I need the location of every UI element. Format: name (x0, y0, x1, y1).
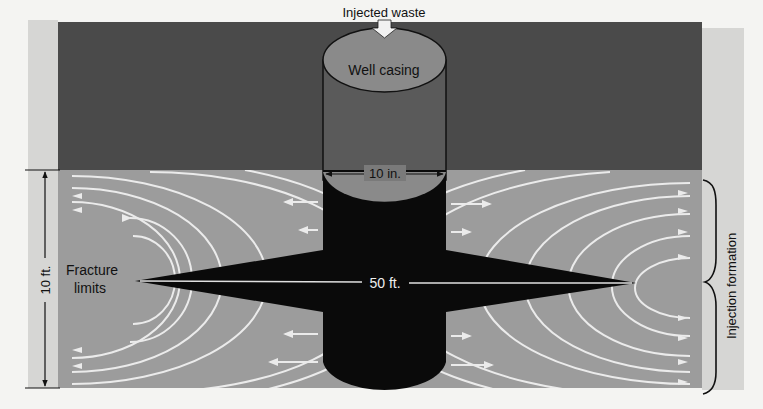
fracture-length-label: 50 ft. (369, 275, 400, 291)
injection-well-diagram: Injected waste Well casing 10 in. 50 ft.… (0, 0, 763, 409)
fracture-limits-label-line2: limits (74, 280, 106, 296)
formation-thickness-label: 10 ft. (38, 266, 53, 295)
left-side-strip (28, 20, 58, 388)
fracture-center-line-left (140, 281, 362, 282)
fracture-limits-label-line1: Fracture (66, 262, 118, 278)
injected-waste-label: Injected waste (342, 5, 425, 20)
well-casing (323, 28, 446, 390)
well-casing-label: Well casing (348, 62, 419, 78)
injection-formation-label: Injection formation (724, 233, 739, 339)
casing-diameter-label: 10 in. (369, 166, 401, 181)
